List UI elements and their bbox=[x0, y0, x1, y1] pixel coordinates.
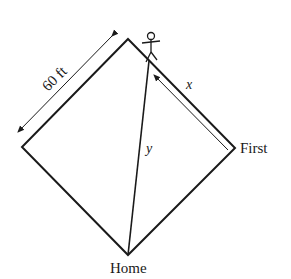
distance-y-label: y bbox=[144, 141, 153, 156]
home-plate-label: Home bbox=[110, 260, 147, 276]
runner-figure-icon bbox=[142, 33, 160, 63]
side-length-dimension-arrow bbox=[18, 36, 112, 132]
side-length-label: 60 ft bbox=[39, 62, 71, 94]
distance-x-label: x bbox=[185, 77, 193, 92]
first-base-label: First bbox=[240, 140, 268, 156]
baseball-diamond-diagram: 60 ft x y First Home bbox=[0, 0, 291, 279]
distance-y-line bbox=[128, 61, 149, 255]
